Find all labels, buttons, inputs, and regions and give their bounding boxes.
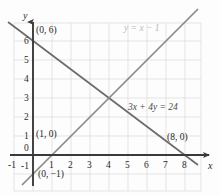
x-tick-5: 5 xyxy=(125,161,130,171)
line-3x-4y-24 xyxy=(8,22,198,165)
graph-figure: y x 6 5 4 3 2 1 -1 -1 0 1 2 3 4 5 6 7 8 … xyxy=(0,0,220,195)
y-axis-label: y xyxy=(23,11,27,21)
x-tick-4: 4 xyxy=(106,161,111,171)
x-tick-3: 3 xyxy=(87,161,92,171)
x-axis-label: x xyxy=(208,161,212,171)
point-label-0-6: (0, 6) xyxy=(36,26,57,36)
x-tick-0: 0 xyxy=(24,144,29,154)
equation-label-line-y-x-minus-1: y = x − 1 xyxy=(124,24,160,34)
x-tick-minus-1: -1 xyxy=(8,161,16,171)
point-label-0-minus-1: (0, −1) xyxy=(38,170,64,180)
y-tick-6: 6 xyxy=(24,37,29,47)
equation-label-line-3x-4y-24: 3x + 4y = 24 xyxy=(128,103,178,113)
x-tick-6: 6 xyxy=(144,161,149,171)
y-tick-minus-1: -1 xyxy=(21,162,29,172)
x-tick-8: 8 xyxy=(182,161,187,171)
y-tick-2: 2 xyxy=(24,113,29,123)
x-tick-2: 2 xyxy=(68,161,73,171)
x-tick-7: 7 xyxy=(163,161,168,171)
y-tick-3: 3 xyxy=(24,94,29,104)
point-label-8-0: (8, 0) xyxy=(167,133,188,143)
y-tick-5: 5 xyxy=(24,56,29,66)
y-tick-4: 4 xyxy=(24,75,29,85)
point-label-1-0: (1, 0) xyxy=(36,130,57,140)
y-tick-1: 1 xyxy=(24,132,29,142)
